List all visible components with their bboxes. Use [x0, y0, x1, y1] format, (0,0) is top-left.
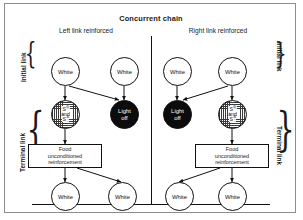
node-white-initial-right-b: White [218, 57, 247, 86]
node-light-off-left: Lightoff [110, 100, 139, 129]
food-reinforcement-box-left: Foodunconditionedreinforcement [28, 144, 102, 168]
sdelta-label: SΔ [229, 116, 237, 122]
node-sd-sdelta-left: SD and SΔ [51, 100, 80, 129]
node-light-off-right: Lightoff [163, 100, 192, 129]
sdelta-label: SΔ [62, 116, 70, 122]
node-white-initial-right-a: White [163, 57, 192, 86]
node-white-initial-left-a: White [51, 57, 80, 86]
food-reinforcement-box-right: Foodunconditionedreinforcement [195, 144, 269, 168]
figure-plate: Concurrent chain Left link reinforced Ri… [17, 14, 285, 204]
node-sd-sdelta-right: SD and SΔ [218, 100, 247, 129]
node-white-terminal-left-b: White [108, 182, 137, 211]
figure-outer-frame: Concurrent chain Left link reinforced Ri… [4, 3, 296, 213]
node-white-initial-left-b: White [110, 57, 139, 86]
node-white-terminal-right-b: White [218, 182, 247, 211]
node-white-terminal-right-a: White [165, 182, 194, 211]
node-white-terminal-left-a: White [51, 182, 80, 211]
